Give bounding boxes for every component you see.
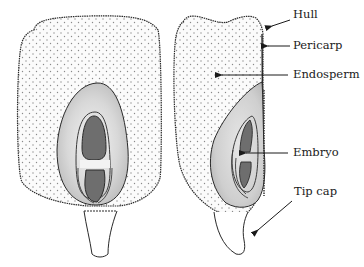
label-hull: Hull — [293, 9, 318, 21]
label-tip-cap: Tip cap — [294, 186, 337, 198]
tip-cap-right — [214, 212, 248, 254]
plumule-left — [82, 116, 106, 160]
corn-kernel-diagram: Hull Pericarp Endosperm Embryo Tip cap — [0, 0, 364, 267]
tip-cap-arrow — [258, 201, 292, 230]
label-embryo: Embryo — [293, 147, 339, 159]
hull-arrow — [272, 20, 290, 26]
kernel-face-view — [18, 16, 162, 257]
label-pericarp: Pericarp — [293, 40, 342, 52]
kernel-side-view — [174, 16, 265, 254]
tip-cap-left — [84, 211, 117, 257]
label-endosperm: Endosperm — [293, 69, 360, 81]
